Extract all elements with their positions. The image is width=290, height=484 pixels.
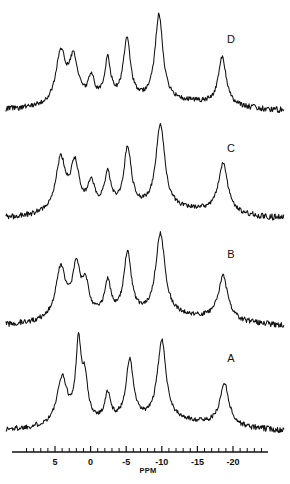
- axis-tick-label: -15: [191, 457, 204, 467]
- axis-tick-label: -20: [226, 457, 239, 467]
- spectrum-trace-a: [6, 333, 284, 433]
- trace-label-c: C: [227, 142, 235, 154]
- axis-tick-label: 0: [88, 457, 93, 467]
- ppm-axis: 50-5-10-15-20PPM: [12, 446, 268, 475]
- spectrum-trace-d: [6, 13, 284, 112]
- trace-label-a: A: [227, 352, 235, 364]
- trace-label-d: D: [227, 33, 235, 45]
- trace-label-b: B: [227, 248, 234, 260]
- spectra-plot-canvas: 50-5-10-15-20PPM ABCD: [0, 0, 290, 484]
- figure-caption: [0, 474, 290, 484]
- axis-tick-label: 5: [52, 457, 57, 467]
- traces-group: [6, 13, 284, 432]
- nmr-spectra-figure: 50-5-10-15-20PPM ABCD: [0, 0, 290, 484]
- spectrum-trace-c: [6, 123, 284, 219]
- axis-tick-label: -5: [122, 457, 130, 467]
- axis-tick-label: -10: [155, 457, 168, 467]
- spectrum-trace-b: [6, 231, 284, 327]
